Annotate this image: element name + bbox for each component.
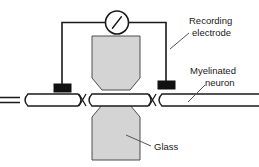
myelinated-neuron-label-line1: Myelinated <box>190 65 236 76</box>
recording-electrode-label-line2: electrode <box>192 27 231 38</box>
myelinated-neuron <box>0 94 259 106</box>
voltmeter <box>106 11 129 34</box>
lower-glass-pipette <box>92 105 140 160</box>
upper-glass-body <box>92 36 140 90</box>
leader-line-recording-electrode <box>170 33 189 49</box>
diagram-canvas: Recording electrode Myelinated neuron Gl… <box>0 0 259 167</box>
upper-glass-pipette <box>92 36 140 90</box>
neuron-recording-diagram: Recording electrode Myelinated neuron Gl… <box>0 0 259 167</box>
left-electrode-block <box>54 84 71 92</box>
myelin-segment-right <box>159 94 259 106</box>
myelin-segment-center <box>89 94 151 106</box>
axon-tail-left <box>0 98 20 103</box>
recording-electrode-label-line1: Recording <box>189 15 232 26</box>
right-electrode-block <box>158 81 175 89</box>
lower-glass-body <box>92 105 140 160</box>
glass-label: Glass <box>154 141 179 152</box>
myelinated-neuron-label-line2: neuron <box>205 77 235 88</box>
myelin-segment-left <box>25 94 81 106</box>
